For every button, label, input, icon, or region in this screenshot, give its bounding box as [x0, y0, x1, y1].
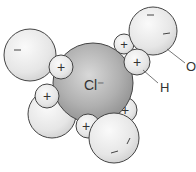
water-molecule-upper-left: +: [4, 29, 73, 81]
oxygen-leader-line: [167, 49, 185, 63]
oxygen-label: O: [186, 59, 196, 74]
plus-sign: +: [43, 88, 51, 104]
plus-sign: +: [120, 37, 128, 52]
water-molecule-bottom: +: [76, 113, 139, 163]
hydrogen-label: H: [160, 80, 169, 95]
chloride-ion: Cl⁻: [53, 43, 133, 123]
plus-sign: +: [57, 59, 65, 75]
chloride-label: Cl⁻: [84, 77, 104, 93]
hydrogen-leader-line: [143, 70, 158, 83]
plus-sign: +: [133, 54, 141, 70]
oxygen-atom: [129, 7, 177, 55]
plus-sign: +: [82, 118, 90, 134]
hydration-diagram: + + Cl⁻ + + + + O H: [0, 0, 196, 172]
oxygen-atom: [89, 113, 139, 163]
oxygen-atom: [4, 29, 56, 81]
water-molecule-upper-right: +: [124, 7, 177, 75]
